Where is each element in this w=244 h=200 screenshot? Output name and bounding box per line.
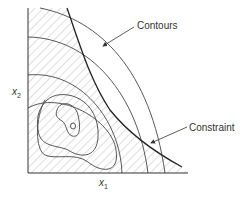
x-axis-subscript: 1 bbox=[104, 183, 108, 190]
diagram-canvas bbox=[0, 0, 244, 200]
constraint-label: Constraint bbox=[189, 123, 235, 133]
contours-leader-arrow bbox=[103, 27, 134, 46]
y-axis-label: x2 bbox=[12, 87, 21, 99]
feasible-region-hatching bbox=[28, 8, 188, 173]
y-axis-subscript: 2 bbox=[17, 92, 21, 99]
x-axis-label: x1 bbox=[99, 178, 108, 190]
constraint-leader-arrow bbox=[151, 127, 187, 143]
contours-label: Contours bbox=[137, 21, 178, 31]
